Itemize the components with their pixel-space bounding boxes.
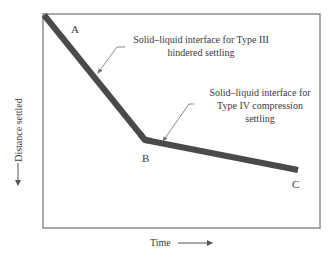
annotation-type4-line3: settling [245, 113, 274, 124]
point-label-b: B [142, 152, 149, 164]
curve-segment-a-b [44, 15, 145, 140]
annotation-type3-line2: hindered settling [168, 47, 235, 58]
settling-diagram: A B C Solid–liquid interface for Type II… [0, 0, 335, 258]
curve-joint [140, 134, 152, 141]
y-axis-label: Distance settled [13, 98, 24, 162]
point-label-c: C [292, 178, 299, 190]
x-axis-label: Time [150, 237, 171, 248]
curve-segment-b-c [145, 140, 298, 170]
annotation-type4-line2: Type IV compression [217, 100, 303, 111]
annotation-type3-line1: Solid–liquid interface for Type III [133, 34, 269, 45]
leader-arrow-type3 [98, 47, 125, 73]
annotation-type4-line1: Solid–liquid interface for [209, 87, 311, 98]
leader-arrow-type4 [163, 104, 194, 141]
point-label-a: A [71, 23, 79, 35]
